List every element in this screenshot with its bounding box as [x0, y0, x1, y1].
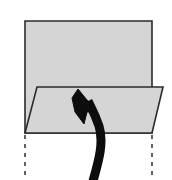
- geometric-figure-svg: Folded plane diagram A light gray rectan…: [0, 0, 172, 180]
- diagram-canvas: Folded plane diagram A light gray rectan…: [0, 0, 172, 180]
